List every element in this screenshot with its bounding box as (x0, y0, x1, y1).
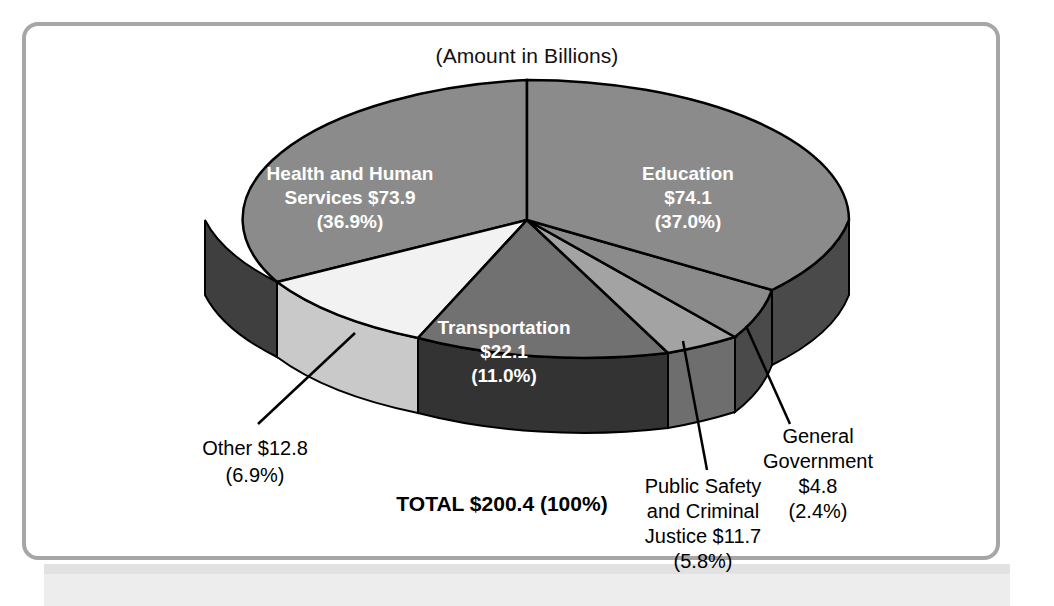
total-label: TOTAL $200.4 (100%) (396, 492, 607, 515)
figure-root: (Amount in Billions) (0, 0, 1054, 606)
label-hhs-line2: Services $73.9 (284, 187, 415, 208)
label-transportation-line2: $22.1 (480, 341, 528, 362)
label-public-safety-line2: and Criminal (647, 500, 759, 522)
label-education-line1: Education (642, 163, 734, 184)
label-education-line2: $74.1 (664, 187, 712, 208)
label-transportation-line1: Transportation (437, 317, 570, 338)
label-public-safety-line4: (5.8%) (674, 550, 733, 572)
label-public-safety-line1: Public Safety (645, 475, 762, 497)
label-general-government-line1: General (782, 425, 853, 447)
label-hhs-line1: Health and Human (267, 163, 434, 184)
label-general-government-line4: (2.4%) (789, 500, 848, 522)
label-general-government-line3: $4.8 (799, 475, 838, 497)
label-other-line2: (6.9%) (226, 464, 285, 486)
label-other-line1: Other $12.8 (202, 437, 308, 459)
label-general-government-line2: Government (763, 450, 873, 472)
label-public-safety-line3: Justice $11.7 (645, 525, 761, 547)
pie-chart-svg: Health and Human Services $73.9 (36.9%) … (0, 0, 1054, 606)
label-transportation-line3: (11.0%) (471, 365, 536, 386)
label-hhs-line3: (36.9%) (317, 211, 384, 232)
label-education-line3: (37.0%) (655, 211, 722, 232)
pie-chart-area: Health and Human Services $73.9 (36.9%) … (0, 0, 1054, 606)
